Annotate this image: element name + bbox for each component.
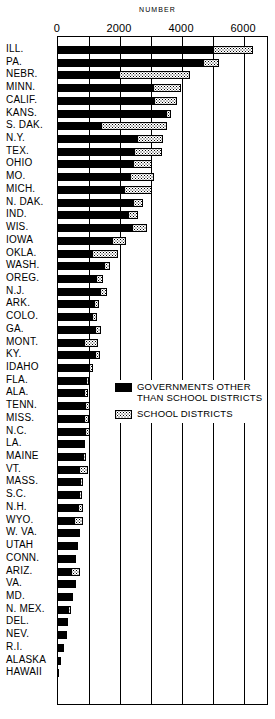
bar-row [58, 542, 269, 550]
category-label-nc: N.C. [6, 426, 52, 436]
bar-segment-governments [58, 199, 133, 207]
bar-row [58, 110, 269, 118]
category-label-pa: PA. [6, 57, 52, 67]
bar-segment-governments [58, 84, 153, 92]
bar-segment-governments [58, 593, 71, 601]
bar-segment-school-districts [104, 262, 111, 270]
category-label-ndak: N. DAK. [6, 197, 52, 207]
bar-row [58, 351, 269, 359]
bar-segment-governments [58, 377, 86, 385]
bar-segment-governments [58, 580, 74, 588]
category-label-ri: R.I. [6, 642, 52, 652]
category-label-ala: ALA. [6, 387, 52, 397]
bar-segment-governments [58, 262, 104, 270]
bar-segment-school-districts [92, 313, 98, 321]
bar-segment-governments [58, 568, 71, 576]
category-label-miss: MISS. [6, 413, 52, 423]
bar-row [58, 631, 269, 639]
category-labels: ILL.PA.NEBR.MINN.CALIF.KANS.S. DAK.N.Y.T… [0, 36, 55, 705]
bar-row [58, 606, 269, 614]
bar-segment-governments [58, 466, 79, 474]
bar-row [58, 466, 269, 474]
category-label-mont: MONT. [6, 337, 52, 347]
bar-row [58, 148, 269, 156]
category-label-conn: CONN. [6, 553, 52, 563]
bar-segment-school-districts [133, 160, 153, 168]
bar-row [58, 339, 269, 347]
bar-segment-school-districts [83, 453, 86, 461]
bar-segment-school-districts [100, 288, 107, 296]
bar-segment-school-districts [213, 46, 253, 54]
bar-segment-school-districts [84, 389, 88, 397]
bar-segment-school-districts [74, 517, 83, 525]
bar-segment-governments [58, 669, 59, 677]
bar-segment-governments [58, 122, 101, 130]
bar-segment-governments [58, 504, 78, 512]
bar-segment-school-districts [78, 529, 80, 537]
category-label-fla: FLA. [6, 375, 52, 385]
bar-segment-school-districts [85, 428, 90, 436]
bar-segment-governments [58, 364, 89, 372]
bar-row [58, 59, 269, 67]
bar-segment-governments [58, 389, 84, 397]
bar-segment-school-districts [119, 71, 190, 79]
category-label-mich: MICH. [6, 184, 52, 194]
bar-segment-school-districts [89, 364, 93, 372]
bar-row [58, 186, 269, 194]
category-label-wyo: WYO. [6, 515, 52, 525]
category-label-wis: WIS. [6, 222, 52, 232]
bar-segment-school-districts [83, 440, 85, 448]
bar-segment-school-districts [153, 84, 182, 92]
bar-row [58, 262, 269, 270]
bar-segment-governments [58, 300, 94, 308]
category-label-colo: COLO. [6, 311, 52, 321]
bar-row [58, 568, 269, 576]
bar-row [58, 669, 269, 677]
bar-row [58, 453, 269, 461]
bar-segment-school-districts [79, 491, 82, 499]
bar-row [58, 593, 269, 601]
bar-segment-school-districts [78, 504, 83, 512]
axis-title: NUMBER [0, 6, 275, 13]
bar-segment-governments [58, 71, 119, 79]
category-label-nebr: NEBR. [6, 69, 52, 79]
bar-row [58, 275, 269, 283]
bar-segment-governments [58, 135, 137, 143]
bar-segment-school-districts [128, 211, 139, 219]
category-label-hawaii: HAWAII [6, 667, 52, 677]
bar-segment-governments [58, 517, 74, 525]
bar-segment-school-districts [84, 415, 89, 423]
category-label-nh: N.H. [6, 502, 52, 512]
bar-row [58, 199, 269, 207]
bar-row [58, 160, 269, 168]
bar-segment-governments [58, 46, 213, 54]
bar-segment-school-districts [71, 593, 73, 601]
bar-segment-governments [58, 351, 95, 359]
bar-segment-school-districts [74, 580, 76, 588]
bar-segment-school-districts [96, 275, 102, 283]
bar-segment-school-districts [124, 186, 152, 194]
category-label-utah: UTAH [6, 540, 52, 550]
category-label-iowa: IOWA [6, 235, 52, 245]
bar-segment-governments [58, 440, 83, 448]
bar-segment-governments [58, 224, 132, 232]
bar-segment-governments [58, 275, 96, 283]
category-label-la: LA. [6, 438, 52, 448]
x-tick-label-2000: 2000 [106, 22, 131, 34]
bar-segment-governments [58, 148, 134, 156]
bar-segment-governments [58, 402, 85, 410]
category-label-ind: IND. [6, 209, 52, 219]
bar-row [58, 97, 269, 105]
bar-row [58, 529, 269, 537]
bar-row [58, 364, 269, 372]
category-label-ga: GA. [6, 324, 52, 334]
category-label-wash: WASH. [6, 260, 52, 270]
category-label-ohio: OHIO [6, 158, 52, 168]
bar-row [58, 173, 269, 181]
bar-segment-governments [58, 160, 133, 168]
bar-segment-governments [58, 237, 112, 245]
bar-segment-school-districts [66, 618, 68, 626]
category-label-del: DEL. [6, 616, 52, 626]
bar-segment-governments [58, 415, 84, 423]
chart-container: NUMBER 0200040006000 ILL.PA.NEBR.MINN.CA… [0, 0, 275, 719]
